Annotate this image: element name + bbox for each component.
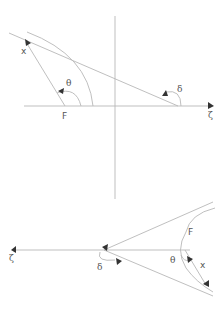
zeta-arrow-icon (208, 102, 214, 109)
top-x-to-F-line (26, 42, 65, 106)
label-theta: θ (66, 78, 71, 88)
label-F: F (62, 111, 67, 121)
label-delta: δ (97, 262, 102, 272)
theta-arrow-icon (58, 88, 64, 94)
diagram-canvas: x F θ δ ζ ζ δ F θ x (0, 0, 223, 318)
top-curve (27, 32, 93, 106)
bottom-upper-line (104, 202, 213, 250)
top-tangent-line (9, 33, 178, 106)
label-zeta: ζ (208, 110, 213, 120)
label-delta: δ (177, 84, 182, 94)
zeta-arrow-icon (11, 246, 16, 253)
label-zeta: ζ (9, 253, 14, 263)
delta-arrow-icon (116, 258, 122, 265)
top-diagram: x F θ δ ζ (9, 32, 214, 121)
label-theta: θ (170, 255, 175, 265)
label-F: F (188, 227, 193, 237)
delta-arrow-icon (162, 90, 168, 96)
label-x: x (21, 46, 27, 56)
bottom-lower-line (104, 250, 213, 296)
bottom-diagram: ζ δ F θ x (9, 202, 215, 296)
label-x: x (200, 260, 206, 270)
